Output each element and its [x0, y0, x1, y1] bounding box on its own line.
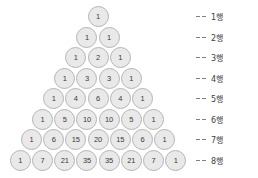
dashed-leader-line-icon	[196, 160, 208, 161]
pascal-node: 1	[154, 129, 175, 150]
dashed-leader-line-icon	[196, 98, 208, 99]
dashed-leader-line-icon	[196, 78, 208, 79]
pascal-node: 1	[65, 47, 86, 68]
pascal-node: 21	[54, 150, 75, 171]
row-label-text: 1행	[211, 11, 223, 22]
pascal-row: 1	[0, 6, 196, 27]
row-label: 3행	[196, 47, 223, 68]
pascal-row: 121	[0, 47, 196, 68]
row-label-text: 4행	[211, 73, 223, 84]
pascal-node: 1	[88, 6, 109, 27]
pascal-node: 1	[165, 150, 186, 171]
pascal-node: 3	[99, 68, 120, 89]
row-label: 1행	[196, 6, 223, 27]
pascal-node: 1	[132, 88, 153, 109]
pascal-node: 7	[143, 150, 164, 171]
pascal-node: 21	[121, 150, 142, 171]
pascal-row: 172135352171	[0, 150, 196, 171]
row-label-column: 1행2행3행4행5행6행7행8행	[196, 0, 258, 178]
row-label: 7행	[196, 129, 223, 150]
pascal-node: 35	[99, 150, 120, 171]
row-label-text: 8행	[211, 155, 223, 166]
pascal-node: 4	[110, 88, 131, 109]
row-label: 5행	[196, 88, 223, 109]
pascal-node: 1	[76, 27, 97, 48]
dashed-leader-line-icon	[196, 119, 208, 120]
pascal-node: 7	[32, 150, 53, 171]
dashed-leader-line-icon	[196, 57, 208, 58]
pascal-node: 10	[99, 109, 120, 130]
pascal-node: 1	[143, 109, 164, 130]
row-label-text: 5행	[211, 93, 223, 104]
pascal-node: 1	[121, 68, 142, 89]
pascal-node: 15	[110, 129, 131, 150]
row-label-text: 7행	[211, 134, 223, 145]
row-label-text: 6행	[211, 114, 223, 125]
pascal-triangle: 1111211331146411510105116152015611721353…	[0, 0, 196, 178]
row-label: 8행	[196, 150, 223, 171]
pascal-node: 15	[65, 129, 86, 150]
pascal-row: 15101051	[0, 109, 196, 130]
pascal-row: 1331	[0, 68, 196, 89]
pascal-node: 1	[10, 150, 31, 171]
pascal-row: 11	[0, 27, 196, 48]
pascal-node: 35	[76, 150, 97, 171]
row-label-text: 3행	[211, 52, 223, 63]
pascal-node: 10	[76, 109, 97, 130]
dashed-leader-line-icon	[196, 139, 208, 140]
pascal-node: 4	[65, 88, 86, 109]
dashed-leader-line-icon	[196, 37, 208, 38]
pascal-node: 1	[110, 47, 131, 68]
pascal-node: 5	[54, 109, 75, 130]
pascal-node: 1	[21, 129, 42, 150]
pascal-row: 1615201561	[0, 129, 196, 150]
pascal-node: 3	[76, 68, 97, 89]
pascal-node: 1	[99, 27, 120, 48]
pascal-node: 1	[32, 109, 53, 130]
row-label-text: 2행	[211, 32, 223, 43]
pascal-node: 1	[54, 68, 75, 89]
pascal-node: 6	[88, 88, 109, 109]
pascal-node: 20	[88, 129, 109, 150]
pascal-node: 6	[132, 129, 153, 150]
pascal-row: 14641	[0, 88, 196, 109]
row-label: 4행	[196, 68, 223, 89]
row-label: 6행	[196, 109, 223, 130]
dashed-leader-line-icon	[196, 16, 208, 17]
pascal-node: 2	[88, 47, 109, 68]
row-label: 2행	[196, 27, 223, 48]
pascal-node: 6	[43, 129, 64, 150]
pascal-node: 1	[43, 88, 64, 109]
pascal-node: 5	[121, 109, 142, 130]
pascal-triangle-figure: 1111211331146411510105116152015611721353…	[0, 0, 258, 178]
